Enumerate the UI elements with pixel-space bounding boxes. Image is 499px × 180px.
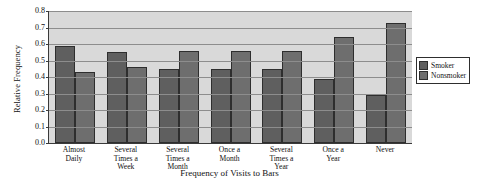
legend-swatch-nonsmoker-icon	[419, 71, 428, 80]
y-axis-tick-label: 0.0	[21, 139, 45, 147]
axis-tick-mark	[46, 110, 49, 111]
gridline	[49, 28, 412, 29]
axis-tick-mark	[46, 77, 49, 78]
axis-tick-mark	[46, 61, 49, 62]
bar-nonsmoker	[386, 23, 406, 143]
gridline	[49, 61, 412, 62]
gridline	[49, 11, 412, 12]
bar-chart: Relative Frequency 0.80.70.60.50.40.30.2…	[0, 0, 499, 180]
y-axis-tick-label: 0.4	[21, 73, 45, 81]
legend-item-smoker: Smoker	[419, 61, 466, 70]
axis-tick-mark	[46, 11, 49, 12]
legend-item-nonsmoker: Nonsmoker	[419, 71, 466, 80]
bar-nonsmoker	[282, 51, 302, 143]
bar-smoker	[107, 52, 127, 143]
axis-tick-mark	[46, 127, 49, 128]
gridline	[49, 77, 412, 78]
bar-nonsmoker	[231, 51, 251, 143]
gridline	[49, 44, 412, 45]
legend: Smoker Nonsmoker	[416, 57, 470, 84]
x-axis-title: Frequency of Visits to Bars	[48, 168, 411, 178]
legend-label-smoker: Smoker	[431, 62, 454, 70]
legend-swatch-smoker-icon	[419, 61, 428, 70]
y-axis-tick-label: 0.7	[21, 24, 45, 32]
bar-smoker	[262, 69, 282, 143]
y-axis-tick-label: 0.5	[21, 57, 45, 65]
axis-tick-mark	[46, 94, 49, 95]
y-axis-tick-label: 0.2	[21, 106, 45, 114]
bar-smoker	[366, 95, 386, 143]
gridline	[49, 94, 412, 95]
axis-tick-mark	[46, 143, 49, 144]
bar-smoker	[159, 69, 179, 143]
bar-smoker	[211, 69, 231, 143]
axis-tick-mark	[46, 28, 49, 29]
gridline	[49, 110, 412, 111]
y-axis-tick-labels: 0.80.70.60.50.40.30.20.10.0	[21, 0, 45, 180]
y-axis-tick-label: 0.1	[21, 123, 45, 131]
legend-label-nonsmoker: Nonsmoker	[431, 72, 466, 80]
y-axis-tick-label: 0.3	[21, 90, 45, 98]
bar-nonsmoker	[179, 51, 199, 143]
plot-area	[48, 11, 412, 144]
bar-nonsmoker	[127, 67, 147, 143]
y-axis-tick-label: 0.6	[21, 40, 45, 48]
axis-tick-mark	[46, 44, 49, 45]
gridline	[49, 127, 412, 128]
bar-nonsmoker	[75, 72, 95, 143]
y-axis-tick-label: 0.8	[21, 7, 45, 15]
